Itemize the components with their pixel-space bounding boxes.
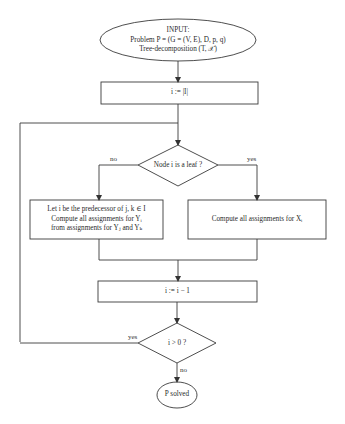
decrement-label: i := i − 1 (98, 287, 257, 297)
leaf-check-label: Node i is a leaf ? (138, 161, 218, 171)
inner-line-1: Let i be the predecessor of j, k ∈ I (30, 205, 163, 215)
loop-no-label: no (180, 366, 187, 374)
leaf-yes-label: yes (247, 155, 256, 163)
inner-line-3: from assignments for Yⱼ and Yₖ (30, 224, 163, 234)
inner-compute-label: Let i be the predecessor of j, k ∈ I Com… (30, 205, 163, 234)
input-line-1: INPUT: (100, 26, 256, 36)
init-label: i := |I| (101, 88, 258, 98)
input-line-3: Tree-decomposition (T, 𝒳) (100, 45, 256, 55)
input-line-2: Problem P = (G = (V, E), D, p, q) (100, 36, 256, 46)
loop-yes-label: yes (128, 333, 137, 341)
input-label: INPUT: Problem P = (G = (V, E), D, p, q)… (100, 26, 256, 55)
loop-check-label: i > 0 ? (138, 339, 216, 349)
inner-line-2: Compute all assignments for Yᵢ (30, 215, 163, 225)
leaf-compute-label: Compute all assignments for Xᵢ (188, 215, 326, 225)
end-label: P solved (157, 390, 197, 400)
leaf-no-label: no (110, 155, 117, 163)
